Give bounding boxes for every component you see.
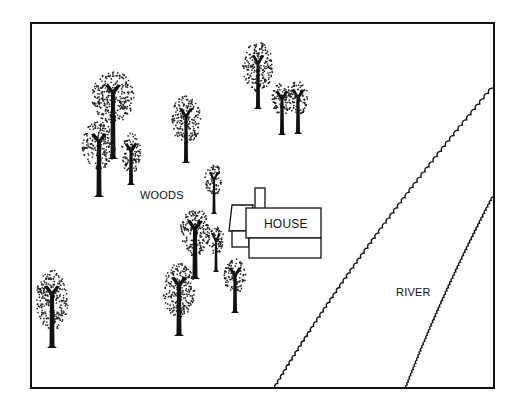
woods-label: WOODS <box>140 189 184 201</box>
map-scene <box>0 0 525 413</box>
house-main-wall <box>249 238 321 258</box>
house-chimney <box>255 188 265 209</box>
house-label: HOUSE <box>264 217 308 231</box>
river-label: RIVER <box>396 286 431 298</box>
